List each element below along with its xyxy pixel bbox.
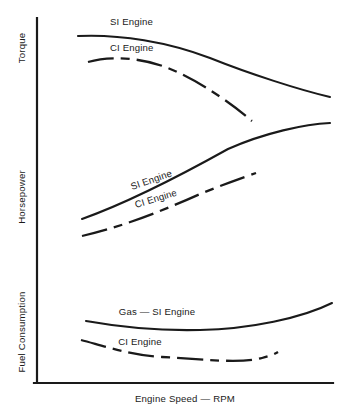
curve-horsepower-ci-engine <box>82 173 256 236</box>
engine-characteristics-figure: SI Engine CI Engine Torque SI Engine CI … <box>0 0 345 415</box>
curve-horsepower-si-engine <box>82 123 330 219</box>
label-fuel-ci-engine: CI Engine <box>118 336 161 347</box>
x-axis-title: Engine Speed — RPM <box>135 393 235 404</box>
curve-fuel-ci-engine <box>81 340 278 361</box>
chart-canvas: SI Engine CI Engine Torque SI Engine CI … <box>0 0 345 415</box>
curve-torque-ci-engine <box>88 58 252 121</box>
label-torque-si-engine: SI Engine <box>110 16 153 27</box>
panel-horsepower: SI Engine CI Engine Horsepower <box>16 123 330 236</box>
label-torque-ci-engine: CI Engine <box>110 42 153 53</box>
y-axis-title-torque: Torque <box>16 33 27 64</box>
y-axis-title-horsepower: Horsepower <box>16 170 27 224</box>
y-axis-title-fuel-consumption: Fuel Consumption <box>16 291 27 372</box>
panel-fuel-consumption: Gas — SI Engine CI Engine Fuel Consumpti… <box>16 291 332 372</box>
label-horsepower-ci-engine: CI Engine <box>133 187 178 210</box>
label-fuel-gas-si-engine: Gas — SI Engine <box>119 306 195 317</box>
panel-torque: SI Engine CI Engine Torque <box>16 16 330 121</box>
